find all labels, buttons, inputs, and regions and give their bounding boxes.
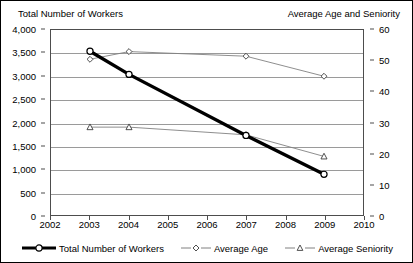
x-tick-label: 2010 bbox=[353, 219, 374, 230]
left-tick-label: 1,500 bbox=[12, 140, 36, 151]
right-tick-mark bbox=[370, 216, 374, 217]
left-tick-mark bbox=[41, 75, 45, 76]
left-tick-label: 3,000 bbox=[12, 70, 36, 81]
data-point-marker bbox=[87, 56, 93, 62]
left-tick-label: 4,000 bbox=[12, 24, 36, 35]
x-tick-mark bbox=[286, 216, 287, 220]
left-tick-label: 2,000 bbox=[12, 117, 36, 128]
series-average-seniority bbox=[87, 124, 327, 159]
right-tick-label: 60 bbox=[379, 24, 390, 35]
left-tick-mark bbox=[41, 216, 45, 217]
right-axis-tick-labels: 0102030405060 bbox=[370, 29, 410, 216]
left-tick-mark bbox=[41, 29, 45, 30]
series-line bbox=[90, 127, 324, 156]
x-tick-mark bbox=[89, 216, 90, 220]
legend-item-label: Average Seniority bbox=[318, 243, 393, 254]
x-tick-label: 2006 bbox=[196, 219, 217, 230]
left-tick-label: 3,500 bbox=[12, 47, 36, 58]
chart-legend: Total Number of WorkersAverage AgeAverag… bbox=[1, 237, 413, 259]
x-tick-mark bbox=[325, 216, 326, 220]
left-tick-label: 500 bbox=[20, 187, 36, 198]
data-point-marker bbox=[126, 49, 132, 55]
right-tick-label: 40 bbox=[379, 86, 390, 97]
x-tick-mark bbox=[246, 216, 247, 220]
x-tick-mark bbox=[129, 216, 130, 220]
legend-item-label: Average Age bbox=[214, 243, 268, 254]
left-tick-mark bbox=[41, 122, 45, 123]
data-point-marker bbox=[243, 53, 249, 59]
right-tick-mark bbox=[370, 91, 374, 92]
series-layer bbox=[51, 30, 363, 215]
left-tick-mark bbox=[41, 52, 45, 53]
x-tick-mark bbox=[168, 216, 169, 220]
plot-area bbox=[50, 29, 364, 216]
x-axis-tick-labels: 200220032004200520062007200820092010 bbox=[50, 219, 364, 233]
x-tick-label: 2004 bbox=[118, 219, 139, 230]
right-tick-label: 50 bbox=[379, 55, 390, 66]
legend-item[interactable]: Average Seniority bbox=[285, 242, 393, 254]
left-tick-label: 2,500 bbox=[12, 94, 36, 105]
left-tick-mark bbox=[41, 192, 45, 193]
series-average-age bbox=[87, 49, 327, 80]
right-tick-label: 0 bbox=[379, 211, 384, 222]
right-tick-mark bbox=[370, 29, 374, 30]
right-tick-mark bbox=[370, 122, 374, 123]
x-tick-label: 2005 bbox=[157, 219, 178, 230]
left-tick-label: 1,000 bbox=[12, 164, 36, 175]
right-axis-title: Average Age and Seniority bbox=[288, 8, 400, 19]
left-tick-label: 0 bbox=[31, 211, 36, 222]
left-tick-mark bbox=[41, 99, 45, 100]
legend-marker-circle-icon bbox=[22, 242, 56, 254]
left-axis-title: Total Number of Workers bbox=[18, 8, 123, 19]
legend-item-label: Total Number of Workers bbox=[59, 243, 164, 254]
left-tick-mark bbox=[41, 169, 45, 170]
legend-marker-diamond-icon bbox=[181, 242, 211, 254]
x-tick-mark bbox=[364, 216, 365, 220]
data-point-marker bbox=[126, 71, 132, 77]
data-point-marker bbox=[87, 48, 93, 54]
series-line bbox=[90, 51, 324, 174]
right-tick-label: 20 bbox=[379, 148, 390, 159]
right-tick-mark bbox=[370, 184, 374, 185]
data-point-marker bbox=[243, 132, 249, 138]
legend-marker-triangle-icon bbox=[285, 242, 315, 254]
x-tick-label: 2003 bbox=[79, 219, 100, 230]
chart-container: Total Number of Workers Average Age and … bbox=[0, 0, 413, 263]
x-tick-label: 2007 bbox=[236, 219, 257, 230]
data-point-marker bbox=[321, 171, 327, 177]
data-point-marker bbox=[321, 73, 327, 79]
legend-item[interactable]: Total Number of Workers bbox=[22, 242, 164, 254]
legend-item[interactable]: Average Age bbox=[181, 242, 268, 254]
left-axis-tick-labels: 05001,0001,5002,0002,5003,0003,5004,000 bbox=[1, 29, 45, 216]
right-tick-label: 10 bbox=[379, 179, 390, 190]
x-tick-label: 2008 bbox=[275, 219, 296, 230]
right-tick-label: 30 bbox=[379, 117, 390, 128]
right-tick-mark bbox=[370, 60, 374, 61]
right-tick-mark bbox=[370, 153, 374, 154]
x-tick-label: 2002 bbox=[39, 219, 60, 230]
x-tick-mark bbox=[50, 216, 51, 220]
x-tick-mark bbox=[207, 216, 208, 220]
left-tick-mark bbox=[41, 145, 45, 146]
x-tick-label: 2009 bbox=[314, 219, 335, 230]
